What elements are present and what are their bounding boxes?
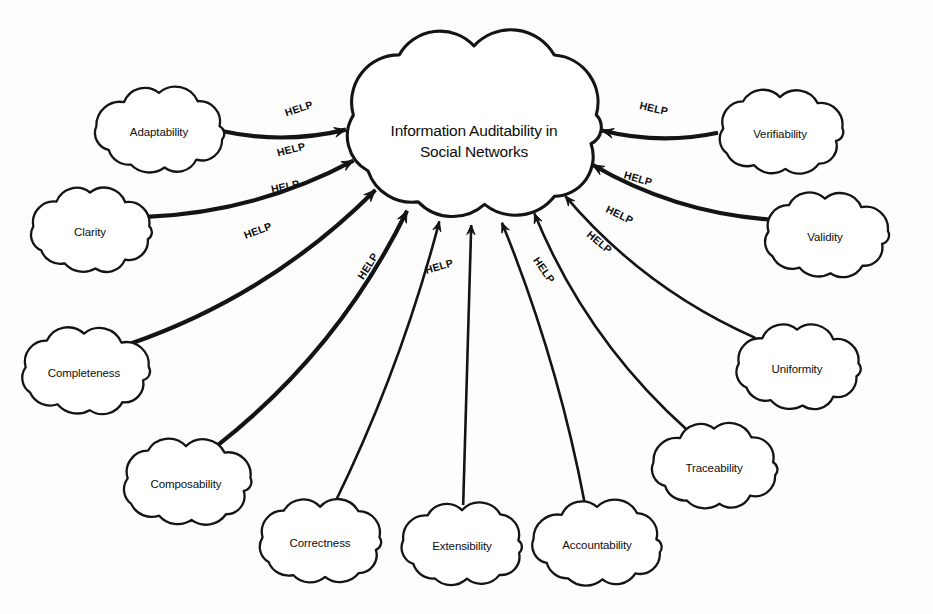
softgoal-node-correctness[interactable]: Correctness: [260, 499, 381, 582]
softgoal-label-composability: Composability: [151, 478, 222, 490]
softgoal-label-validity: Validity: [807, 231, 843, 243]
softgoal-node-adaptability[interactable]: Adaptability: [95, 87, 224, 173]
link-line-verifiability: [602, 131, 718, 139]
link-line-extensibility: [463, 225, 471, 505]
softgoal-node-clarity[interactable]: Clarity: [31, 188, 152, 272]
softgoal-node-traceability[interactable]: Traceability: [652, 423, 777, 508]
contribution-link-uniformity: [565, 196, 755, 338]
contribution-link-adaptability: [223, 128, 346, 138]
contribution-link-verifiability: [602, 129, 718, 139]
help-label-uniformity: HELP: [604, 203, 635, 226]
softgoal-label-adaptability: Adaptability: [130, 126, 189, 138]
help-label-accountability: HELP: [531, 254, 557, 284]
softgoal-node-completeness[interactable]: Completeness: [22, 327, 150, 414]
central-softgoal-node[interactable]: Information Auditability inSocial Networ…: [347, 30, 601, 217]
softgoal-label-traceability: Traceability: [685, 462, 743, 474]
softgoal-label-completeness: Completeness: [48, 367, 121, 379]
help-label-verifiability: HELP: [639, 99, 670, 117]
link-line-adaptability: [223, 130, 346, 138]
help-label-adaptability: HELP: [283, 98, 314, 118]
softgoal-node-verifiability[interactable]: Verifiability: [720, 90, 844, 174]
link-line-uniformity: [565, 196, 755, 338]
softgoal-node-composability[interactable]: Composability: [124, 439, 251, 525]
softgoal-label-uniformity: Uniformity: [772, 363, 823, 375]
softgoal-label-correctness: Correctness: [290, 537, 351, 549]
contribution-link-extensibility: [463, 225, 475, 505]
softgoal-label-accountability: Accountability: [562, 539, 632, 551]
softgoal-node-accountability[interactable]: Accountability: [532, 500, 661, 586]
softgoal-interdependency-diagram: AdaptabilityClarityCompletenessComposabi…: [0, 0, 933, 614]
softgoal-label-clarity: Clarity: [74, 226, 106, 238]
central-label-line-2: Social Networks: [420, 143, 529, 160]
help-label-clarity: HELP: [276, 140, 307, 159]
diagram-canvas: AdaptabilityClarityCompletenessComposabi…: [0, 0, 933, 614]
softgoal-label-verifiability: Verifiability: [753, 128, 807, 140]
central-label-line-1: Information Auditability in: [391, 122, 558, 139]
softgoal-node-validity[interactable]: Validity: [765, 192, 889, 277]
central-softgoal-layer: Information Auditability inSocial Networ…: [347, 30, 601, 217]
softgoal-label-extensibility: Extensibility: [432, 540, 492, 552]
help-label-composability: HELP: [242, 220, 273, 241]
softgoal-node-extensibility[interactable]: Extensibility: [402, 502, 522, 585]
